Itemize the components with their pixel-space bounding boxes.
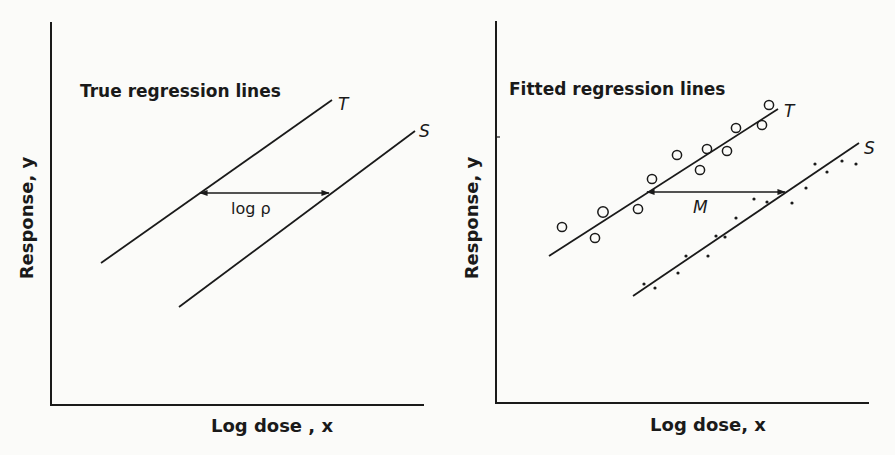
right-title: Fitted regression lines — [509, 79, 725, 99]
true-line-S — [179, 131, 415, 307]
panel-true-regression: True regression lines Response, y Log do… — [16, 22, 430, 436]
right-x-axis-label: Log dose, x — [650, 414, 766, 435]
left-label-T: T — [338, 94, 350, 114]
right-label-T: T — [784, 101, 796, 121]
left-label-S: S — [419, 121, 430, 141]
fitted-line-S — [633, 143, 859, 296]
panel-fitted-regression: Fitted regression lines Response, y Log … — [461, 21, 875, 435]
left-y-axis-label: Response, y — [16, 156, 37, 279]
right-y-axis-label: Response, y — [461, 156, 482, 279]
true-line-T — [101, 100, 332, 263]
left-x-axis-label: Log dose , x — [211, 415, 334, 436]
log-rho-label: log ρ — [231, 199, 271, 218]
fitted-line-T — [549, 109, 778, 256]
M-label: M — [693, 197, 708, 217]
left-title: True regression lines — [80, 81, 281, 101]
right-label-S: S — [864, 138, 875, 158]
T-data-points — [557, 100, 773, 242]
S-data-points — [642, 159, 857, 289]
figure: True regression lines Response, y Log do… — [0, 0, 895, 455]
